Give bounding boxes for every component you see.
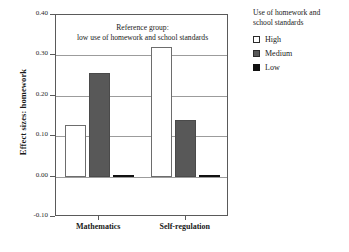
bar-self-regulation-high [151, 47, 172, 176]
legend-label-high: High [265, 35, 281, 44]
legend-swatch-medium-icon [253, 50, 260, 57]
bar-mathematics-high [65, 125, 86, 177]
legend-title-line-1: Use of homework and [253, 8, 347, 18]
x-axis-tick-label: Self-regulation [135, 222, 235, 231]
legend: Use of homework and school standards Hig… [253, 8, 347, 76]
y-axis-tick-label: 0.00 [0, 171, 55, 181]
x-axis-tick-mark [185, 216, 186, 220]
y-axis-tick-label: 0.10 [0, 130, 55, 140]
bar-mathematics-low [113, 175, 134, 177]
legend-title-line-2: school standards [253, 18, 347, 28]
legend-label-medium: Medium [265, 49, 292, 58]
plot-annotation: Reference group: low use of homework and… [64, 23, 221, 43]
legend-item-low: Low [253, 62, 347, 73]
gridline [56, 177, 227, 178]
gridline [56, 96, 227, 97]
bar-mathematics-medium [89, 73, 110, 177]
bar-self-regulation-low [199, 175, 220, 177]
y-axis-tick-mark [50, 216, 55, 217]
figure-chart-effect-sizes-homework: Effect sizes: homework 0.400.300.200.100… [0, 0, 349, 252]
x-axis-tick-mark [98, 216, 99, 220]
legend-item-medium: Medium [253, 48, 347, 59]
annotation-line-1: Reference group: [64, 23, 221, 33]
plot-area: Reference group: low use of homework and… [55, 14, 228, 216]
legend-item-high: High [253, 34, 347, 45]
legend-title: Use of homework and school standards [253, 8, 347, 27]
x-axis-tick-label: Mathematics [48, 222, 148, 231]
y-axis-tick-label: 0.40 [0, 9, 55, 19]
legend-label-low: Low [265, 63, 280, 72]
legend-swatch-high-icon [253, 36, 260, 43]
y-axis-tick-label: 0.20 [0, 90, 55, 100]
y-axis-tick-label: -0.10 [0, 211, 55, 221]
gridline [56, 55, 227, 56]
annotation-line-2: low use of homework and school standards [64, 33, 221, 43]
y-axis-tick-label: 0.30 [0, 49, 55, 59]
bar-self-regulation-medium [175, 120, 196, 177]
legend-swatch-low-icon [253, 64, 260, 71]
